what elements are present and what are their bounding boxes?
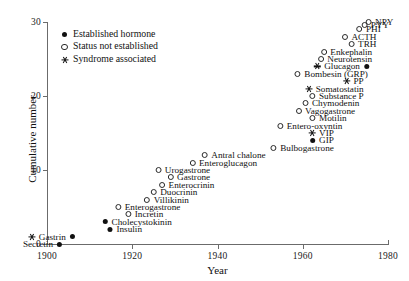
x-tick-label: 1900 (37, 251, 57, 261)
open-circle-marker-icon (189, 160, 195, 166)
x-tick-label: 1980 (378, 251, 398, 261)
data-point-label: Gastrin (36, 232, 68, 242)
marker-slot-left (309, 115, 317, 121)
open-circle-marker-icon (318, 56, 324, 62)
filled-circle-marker-icon (364, 64, 369, 69)
x-tick-label: 1940 (208, 251, 228, 261)
star-marker-icon (29, 233, 36, 240)
x-tick-label: 1960 (293, 251, 313, 261)
open-circle-marker-icon (342, 34, 348, 40)
data-point-label: NPY (373, 17, 396, 27)
marker-slot-left (154, 167, 162, 173)
y-axis-title: Cumulative number (26, 59, 38, 219)
marker-slot-left (301, 100, 309, 106)
marker-slot-left (158, 182, 166, 188)
data-point: NPY (365, 17, 396, 27)
data-point: Gastrin (28, 232, 76, 242)
open-circle-marker-icon (202, 152, 208, 158)
star-marker-icon (306, 85, 313, 92)
marker-slot-left (341, 34, 349, 40)
legend-label: Established hormone (73, 28, 155, 39)
open-circle-marker-icon (302, 100, 308, 106)
marker-slot-left (101, 219, 109, 224)
open-circle-marker-icon (144, 197, 150, 203)
filled-circle-marker-icon (310, 138, 315, 143)
marker-slot-right (56, 242, 64, 247)
legend-marker (58, 53, 71, 64)
filled-circle-marker-icon (107, 227, 112, 232)
open-circle-marker-icon (309, 93, 315, 99)
data-point-label: Antral chalone (209, 150, 268, 160)
marker-slot-right (362, 64, 370, 69)
legend-item: Established hormone (58, 27, 158, 40)
filled-circle-marker-icon (70, 234, 75, 239)
open-circle-marker-icon (271, 145, 277, 151)
marker-slot-left (309, 138, 317, 143)
open-circle-marker-icon (159, 182, 165, 188)
marker-slot-left (201, 152, 209, 158)
x-tick-mark (132, 245, 133, 249)
legend-item: Syndrome associated (58, 52, 158, 65)
x-tick-mark (388, 240, 389, 245)
open-circle-marker-icon (155, 167, 161, 173)
star-bar (29, 236, 36, 237)
open-circle-marker-icon (366, 19, 372, 25)
marker-slot-left (348, 41, 356, 47)
open-circle-marker-icon (115, 204, 121, 210)
star-marker-icon (61, 56, 68, 63)
chart-legend: Established hormoneStatus not establishe… (58, 27, 158, 65)
star-bar (306, 88, 313, 89)
open-circle-marker-icon (151, 189, 157, 195)
star-bar (61, 59, 68, 60)
open-circle-marker-icon (295, 71, 301, 77)
marker-slot-left (167, 174, 175, 180)
filled-circle-marker-icon (57, 242, 62, 247)
open-circle-marker-icon (296, 108, 302, 114)
marker-slot-left (28, 233, 36, 240)
open-circle-marker-icon (168, 174, 174, 180)
open-circle-marker-icon (321, 49, 327, 55)
x-axis-title: Year (47, 264, 388, 276)
marker-slot-left (365, 19, 373, 25)
star-bar (309, 132, 316, 133)
open-circle-marker-icon (310, 115, 316, 121)
marker-slot-left (305, 85, 313, 92)
data-point: Antral chalone (201, 150, 268, 160)
marker-slot-right (68, 234, 76, 239)
marker-slot-left (106, 227, 114, 232)
marker-slot-left (294, 71, 302, 77)
marker-slot-left (276, 123, 284, 129)
open-circle-marker-icon (61, 44, 68, 51)
marker-slot-left (114, 204, 122, 210)
legend-marker (58, 28, 71, 39)
filled-circle-marker-icon (103, 219, 108, 224)
marker-slot-left (143, 197, 151, 203)
x-tick-mark (218, 245, 219, 249)
marker-slot-left (270, 145, 278, 151)
filled-circle-marker-icon (62, 32, 68, 38)
star-bar (314, 66, 321, 67)
x-tick-label: 1920 (122, 251, 142, 261)
legend-marker (58, 40, 71, 51)
gut-hormone-cumulative-scatter-chart: 19001920194019601980 0102030 Year Cumula… (0, 0, 409, 281)
y-tick-mark (43, 96, 47, 97)
marker-slot-left (295, 108, 303, 114)
marker-slot-left (150, 189, 158, 195)
legend-label: Status not established (73, 40, 158, 51)
x-tick-mark (303, 245, 304, 249)
open-circle-marker-icon (277, 123, 283, 129)
marker-slot-left (124, 211, 132, 217)
marker-slot-left (188, 160, 196, 166)
y-tick-label: 30 (24, 17, 41, 27)
y-tick-mark (43, 170, 47, 171)
open-circle-marker-icon (349, 41, 355, 47)
marker-slot-left (320, 49, 328, 55)
marker-slot-left (317, 56, 325, 62)
legend-item: Status not established (58, 40, 158, 53)
y-axis-line (47, 22, 48, 245)
open-circle-marker-icon (125, 211, 131, 217)
star-bar (343, 81, 350, 82)
legend-label: Syndrome associated (73, 53, 156, 64)
marker-slot-left (308, 93, 316, 99)
y-tick-mark (43, 22, 47, 23)
